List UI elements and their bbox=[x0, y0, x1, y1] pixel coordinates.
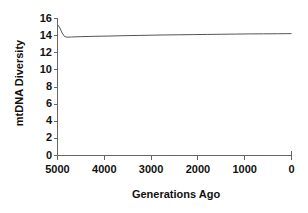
y-axis-title: mtDNA Diversity bbox=[13, 28, 25, 138]
y-tick-label: 16 bbox=[20, 13, 52, 24]
tick-marks-group bbox=[54, 19, 292, 160]
x-tick-label: 3000 bbox=[131, 164, 171, 175]
chart-figure: 0246810121416 500040003000200010000 Gene… bbox=[0, 0, 307, 213]
x-tick-label: 1000 bbox=[225, 164, 265, 175]
x-tick-label: 5000 bbox=[38, 164, 78, 175]
data-line bbox=[58, 24, 292, 37]
x-axis-title: Generations Ago bbox=[57, 188, 295, 200]
data-series-group bbox=[58, 24, 292, 37]
axes-group bbox=[58, 18, 292, 156]
y-tick-label: 0 bbox=[20, 150, 52, 161]
x-tick-label: 2000 bbox=[178, 164, 218, 175]
x-tick-label: 4000 bbox=[84, 164, 124, 175]
x-tick-label: 0 bbox=[272, 164, 308, 175]
